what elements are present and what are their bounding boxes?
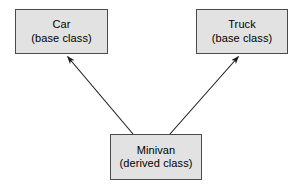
edge-minivan-to-car <box>68 57 134 135</box>
class-node-minivan-title: Minivan <box>137 144 176 157</box>
edge-minivan-to-truck <box>170 57 239 135</box>
class-node-minivan-subtitle: (derived class) <box>119 157 192 170</box>
class-node-car[interactable]: Car (base class) <box>15 9 108 54</box>
class-node-car-subtitle: (base class) <box>31 32 92 45</box>
class-node-truck[interactable]: Truck (base class) <box>196 9 288 54</box>
class-node-truck-title: Truck <box>228 18 256 31</box>
class-node-minivan[interactable]: Minivan (derived class) <box>110 134 202 180</box>
diagram-canvas: Car (base class) Truck (base class) Mini… <box>0 0 300 186</box>
class-node-truck-subtitle: (base class) <box>212 32 273 45</box>
class-node-car-title: Car <box>52 18 70 31</box>
